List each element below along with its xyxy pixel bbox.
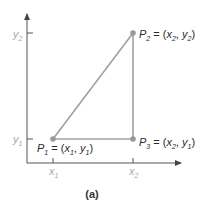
y1-tick-label: y1: [12, 133, 23, 147]
point-p2: [130, 30, 136, 36]
hypotenuse-segment: [53, 33, 133, 139]
p1-label: P1 = (x1, y1): [37, 142, 93, 156]
point-p3: [130, 136, 136, 142]
right-triangle-diagram: y2 y1 x1 x2 P1 = (x1, y1) P2 = (x2, y2) …: [0, 0, 205, 208]
p2-label: P2 = (x2, y2): [139, 28, 195, 42]
p3-label: P3 = (x2, y1): [139, 136, 195, 150]
x2-tick-label: x2: [128, 165, 139, 179]
figure-caption: (a): [85, 188, 99, 200]
point-p1: [50, 136, 56, 142]
x1-tick-label: x1: [48, 165, 59, 179]
y2-tick-label: y2: [12, 28, 23, 42]
